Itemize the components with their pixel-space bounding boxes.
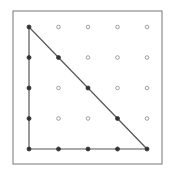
peg-icon: [57, 117, 61, 121]
peg-icon: [27, 86, 31, 90]
peg-icon: [57, 56, 61, 60]
peg-icon: [116, 86, 120, 90]
peg-icon: [57, 147, 61, 151]
peg-icon: [116, 117, 120, 121]
peg-icon: [27, 147, 31, 151]
peg-icon: [27, 117, 31, 121]
peg-icon: [145, 56, 149, 60]
peg-icon: [86, 86, 90, 90]
peg-icon: [145, 86, 149, 90]
peg-icon: [116, 147, 120, 151]
peg-icon: [86, 147, 90, 151]
peg-icon: [86, 25, 90, 29]
peg-icon: [57, 86, 61, 90]
peg-icon: [145, 147, 149, 151]
peg-icon: [86, 56, 90, 60]
peg-icon: [116, 56, 120, 60]
peg-icon: [116, 25, 120, 29]
peg-icon: [27, 56, 31, 60]
peg-icon: [145, 117, 149, 121]
peg-icon: [145, 25, 149, 29]
peg-icon: [27, 25, 31, 29]
peg-icon: [86, 117, 90, 121]
peg-icon: [57, 25, 61, 29]
geoboard-diagram: [0, 0, 172, 172]
